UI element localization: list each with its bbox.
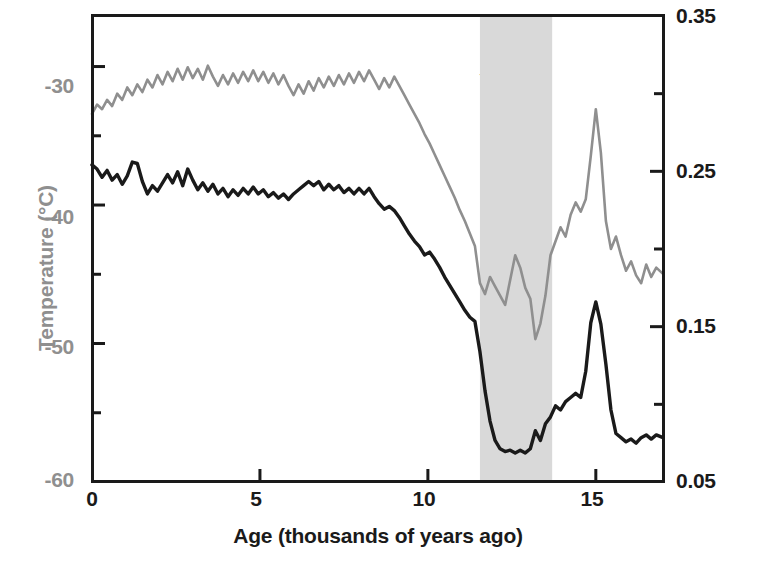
shaded-band-layer bbox=[480, 16, 552, 482]
younger-dryas-band bbox=[480, 16, 552, 482]
axis-ticks-layer bbox=[92, 67, 663, 482]
plot-canvas bbox=[0, 0, 766, 561]
paleoclimate-chart: Temperature (°C) Ice accumulation (metre… bbox=[0, 0, 766, 561]
data-series-layer bbox=[92, 66, 663, 453]
